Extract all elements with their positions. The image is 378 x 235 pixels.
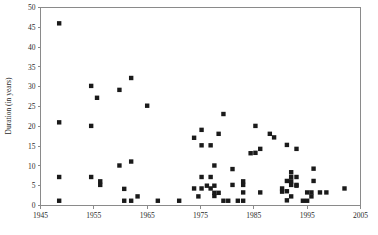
data-point: [192, 136, 196, 140]
data-point: [122, 199, 126, 203]
y-tick-label: 50: [28, 3, 36, 12]
data-point: [199, 143, 203, 147]
data-point: [98, 183, 102, 187]
data-point: [129, 199, 133, 203]
data-point: [294, 147, 298, 151]
data-point: [268, 132, 272, 136]
data-point: [309, 190, 313, 194]
scatter-chart: 05101520253035404550 1945195519651975198…: [0, 0, 378, 235]
data-point: [294, 184, 298, 188]
data-point: [305, 190, 309, 194]
data-point: [289, 175, 293, 179]
y-tick-label: 25: [28, 102, 36, 111]
data-point: [212, 163, 216, 167]
x-tick-label: 1945: [33, 211, 48, 220]
data-point: [253, 124, 257, 128]
data-point: [236, 199, 240, 203]
data-point: [192, 186, 196, 190]
data-point: [208, 186, 212, 190]
data-point: [145, 104, 149, 108]
x-tick-label: 1955: [86, 211, 101, 220]
data-point: [122, 187, 126, 191]
data-point: [230, 183, 234, 187]
y-tick-label: 45: [28, 23, 36, 32]
y-axis-title: Duration (in years): [4, 77, 13, 135]
data-point: [208, 175, 212, 179]
data-point: [294, 175, 298, 179]
data-point: [301, 199, 305, 203]
y-tick-label: 30: [28, 82, 36, 91]
data-point: [89, 124, 93, 128]
data-point: [258, 147, 262, 151]
data-point: [57, 199, 61, 203]
x-tick-label: 1965: [140, 211, 155, 220]
data-point: [311, 179, 315, 183]
data-point: [289, 194, 293, 198]
data-point: [221, 112, 225, 116]
data-point: [241, 199, 245, 203]
x-axis-ticks: 1945195519651975198519952005: [33, 206, 368, 220]
data-point: [309, 194, 313, 198]
data-point: [241, 190, 245, 194]
data-point-group: [57, 21, 347, 203]
data-point: [57, 175, 61, 179]
data-point: [285, 198, 289, 202]
data-point: [280, 189, 284, 193]
data-point: [221, 199, 225, 203]
data-point: [216, 191, 220, 195]
y-tick-label: 35: [28, 63, 36, 72]
data-point: [285, 179, 289, 183]
y-tick-label: 40: [28, 43, 36, 52]
data-point: [226, 199, 230, 203]
data-point: [253, 151, 257, 155]
data-point: [342, 186, 346, 190]
data-point: [324, 190, 328, 194]
data-point: [318, 190, 322, 194]
x-tick-label: 2005: [353, 211, 368, 220]
y-tick-label: 0: [32, 201, 36, 210]
x-tick-label: 1995: [300, 211, 315, 220]
data-point: [199, 175, 203, 179]
data-point: [216, 132, 220, 136]
y-tick-label: 10: [28, 162, 36, 171]
y-tick-label: 20: [28, 122, 36, 131]
data-point: [135, 194, 139, 198]
x-tick-label: 1985: [246, 211, 261, 220]
data-point: [196, 194, 200, 198]
data-point: [272, 135, 276, 139]
data-point: [129, 159, 133, 163]
data-point: [289, 170, 293, 174]
data-point: [199, 128, 203, 132]
data-point: [208, 143, 212, 147]
data-point: [248, 151, 252, 155]
data-point: [95, 96, 99, 100]
data-point: [285, 143, 289, 147]
data-point: [212, 184, 216, 188]
data-point: [199, 186, 203, 190]
data-point: [305, 199, 309, 203]
data-point: [117, 163, 121, 167]
data-point: [117, 88, 121, 92]
data-point: [89, 175, 93, 179]
data-point: [156, 199, 160, 203]
y-tick-label: 5: [32, 181, 36, 190]
y-tick-label: 15: [28, 142, 36, 151]
data-point: [289, 183, 293, 187]
data-point: [89, 84, 93, 88]
data-point: [57, 120, 61, 124]
data-point: [285, 189, 289, 193]
data-point: [177, 199, 181, 203]
data-point: [311, 166, 315, 170]
data-point: [230, 167, 234, 171]
data-point: [212, 194, 216, 198]
x-tick-label: 1975: [193, 211, 208, 220]
data-point: [57, 21, 61, 25]
data-point: [241, 183, 245, 187]
y-axis-ticks: 05101520253035404550: [28, 3, 41, 210]
data-point: [258, 190, 262, 194]
data-point: [129, 76, 133, 80]
